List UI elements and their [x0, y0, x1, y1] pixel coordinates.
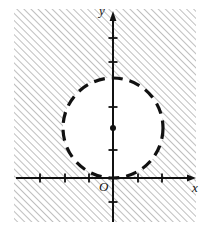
circle-center-dot: [110, 125, 116, 131]
origin-label: O: [99, 179, 109, 194]
x-axis-label: x: [191, 180, 198, 195]
y-axis-label: y: [97, 3, 105, 18]
diagram-canvas: x y O: [0, 0, 205, 230]
math-figure: x y O: [0, 0, 205, 230]
